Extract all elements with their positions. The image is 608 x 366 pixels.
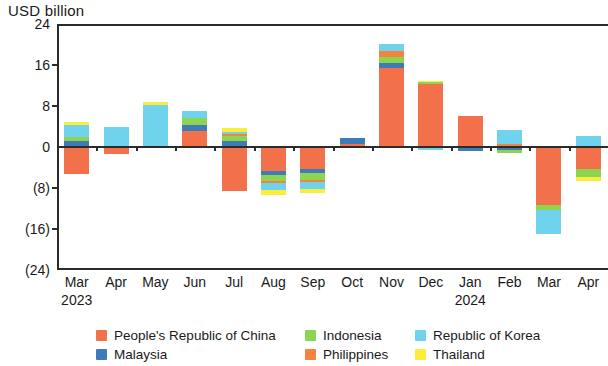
bar-segment [418, 82, 443, 84]
bar-segment [536, 147, 561, 205]
legend-item[interactable]: People's Republic of China [96, 329, 276, 342]
y-axis-tick-label: (8) [2, 181, 50, 195]
y-axis-tick [52, 187, 58, 189]
x-axis-year-label: 2024 [444, 292, 496, 308]
bar-segment [418, 81, 443, 83]
legend-color-swatch [96, 330, 107, 341]
y-axis-tick-label: 24 [2, 17, 50, 31]
zero-baseline [57, 146, 608, 148]
y-axis-tick-label: 8 [2, 99, 50, 113]
bar-segment [64, 137, 89, 142]
bar-segment [261, 183, 286, 190]
bar-segment [182, 131, 207, 147]
x-axis-label: Apr [562, 274, 608, 290]
bar-segment [458, 116, 483, 147]
legend-label: Philippines [323, 348, 388, 361]
bar-segment [182, 111, 207, 119]
y-axis-tick [52, 64, 58, 66]
bar-segment [497, 150, 522, 154]
legend-label: Malaysia [114, 348, 167, 361]
bar-segment [261, 190, 286, 195]
y-axis-tick-label: (16) [2, 222, 50, 236]
bar-segment [143, 102, 168, 105]
legend-color-swatch [96, 349, 107, 360]
bar-segment [379, 44, 404, 51]
bar-segment [143, 105, 168, 147]
legend-label: Indonesia [323, 329, 382, 342]
legend-color-swatch [305, 330, 316, 341]
bar-segment [104, 147, 129, 154]
bar-segment [497, 130, 522, 144]
bar-segment [261, 147, 286, 171]
legend-label: People's Republic of China [114, 329, 276, 342]
legend-item[interactable]: Malaysia [96, 348, 167, 361]
chart-figure: USD billion 241680(8)(16)(24) MarAprMayJ… [0, 0, 608, 366]
plot-area [57, 24, 608, 270]
bar-segment [379, 57, 404, 63]
plot-area-wrapper: 241680(8)(16)(24) [0, 24, 608, 270]
bar-segment [340, 138, 365, 144]
legend-color-swatch [305, 349, 316, 360]
legend-label: Republic of Korea [433, 329, 540, 342]
bar-segment [300, 189, 325, 193]
y-axis-tick [52, 105, 58, 107]
chart-legend: People's Republic of ChinaIndonesiaRepub… [0, 327, 608, 366]
bar-segment [379, 63, 404, 68]
bar-segment [300, 182, 325, 189]
y-axis-tick [52, 228, 58, 230]
bar-segment [104, 127, 129, 147]
y-axis-tick-label: (24) [2, 263, 50, 277]
bar-segment [64, 122, 89, 125]
bar-segment [418, 84, 443, 147]
legend-color-swatch [415, 349, 426, 360]
bar-segment [379, 68, 404, 147]
bar-segment [576, 147, 601, 169]
bar-segment [222, 136, 247, 141]
legend-color-swatch [415, 330, 426, 341]
legend-item[interactable]: Indonesia [305, 329, 382, 342]
y-axis-tick-label: 0 [2, 140, 50, 154]
bar-segment [300, 147, 325, 169]
bar-segment [64, 147, 89, 174]
x-axis-labels: MarAprMayJunJulAugSepOctNovDecJanFebMarA… [57, 274, 608, 292]
legend-label: Thailand [433, 348, 485, 361]
bar-segment [576, 177, 601, 182]
legend-item[interactable]: Philippines [305, 348, 388, 361]
bar-segment [536, 210, 561, 234]
legend-item[interactable]: Republic of Korea [415, 329, 540, 342]
bar-segment [222, 132, 247, 135]
bar-segment [300, 173, 325, 180]
bar-segment [182, 118, 207, 125]
x-axis-line [57, 268, 608, 270]
bar-segment [64, 125, 89, 137]
bar-segment [222, 134, 247, 136]
legend-item[interactable]: Thailand [415, 348, 485, 361]
bar-segment [222, 147, 247, 191]
bar-segment [576, 169, 601, 177]
x-axis-year-label: 2023 [51, 292, 103, 308]
bar-segment [222, 128, 247, 132]
bar-segment [379, 51, 404, 57]
y-axis-tick-label: 16 [2, 58, 50, 72]
bar-segment [182, 125, 207, 130]
